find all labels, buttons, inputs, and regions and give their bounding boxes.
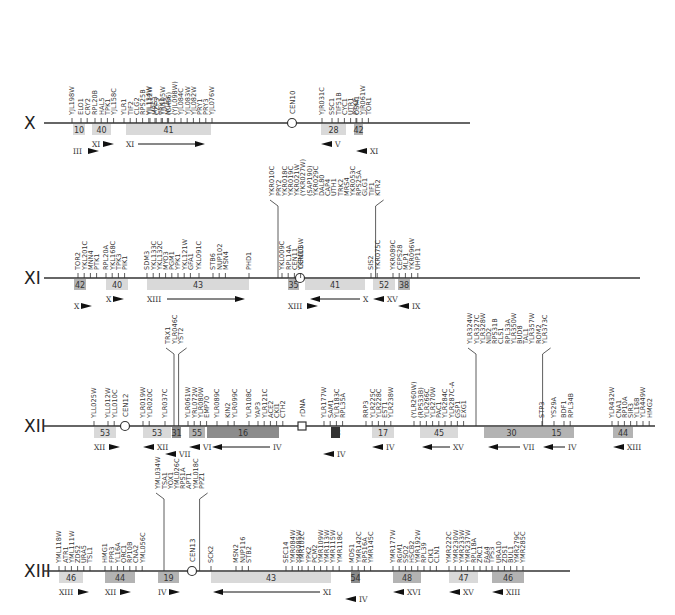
gene-label-group: YJL112WCZF3YJL105W(CH56)(YJL098W)YJL084C… (146, 81, 216, 123)
chromosome-label: X (24, 113, 36, 133)
block-number: 38 (399, 281, 409, 290)
arrow-label: X (363, 295, 369, 304)
gene-label-group: MSN2NUP116STB2 (232, 537, 252, 571)
block-number: 41 (163, 126, 173, 135)
rdna-label: rDNA (299, 398, 307, 417)
gene-label-group: MDS1YMR142CRPS16AYMR145C (348, 531, 375, 571)
synteny-block: 42X (74, 279, 92, 311)
orientation-arrow: XII (143, 443, 168, 452)
arrow-label: XI (370, 147, 378, 156)
gene-label-group: BDF1RPL34B (560, 392, 574, 426)
gene-label: RPL35A (339, 392, 347, 418)
gene-label-group: YLL025W (90, 387, 98, 426)
synteny-block: 43XI (211, 572, 331, 597)
gene-label: SCK2 (207, 546, 215, 563)
gene-label-group: TPS3URA10ZDS1BUL1YMR279CYMR285C (488, 531, 527, 571)
synteny-block: 28V (321, 124, 346, 149)
gene-label-group: YS29A (550, 396, 558, 426)
arrow-label: IV (568, 443, 577, 452)
block-number: 15 (551, 429, 561, 438)
gene-label-group: YLR108C (245, 388, 253, 426)
orientation-arrow: IV (212, 443, 282, 452)
block-number: 19 (163, 574, 173, 583)
arrow-label: XV (463, 588, 474, 597)
gene-label: TOR1 (365, 97, 373, 116)
orientation-arrow: XI (92, 140, 114, 149)
arrow-label: X (74, 302, 80, 311)
block-number: 54 (350, 574, 360, 583)
block-number: 10 (74, 126, 84, 135)
centromere-marker: CEN10 (288, 91, 297, 128)
synteny-block: 44XII (105, 572, 135, 597)
synteny-block: 45XV (420, 427, 464, 452)
gene-label-group: ELO1CRY2 (77, 98, 91, 123)
centromere-label: CEN12 (122, 394, 130, 417)
gene-label: UHP11 (414, 248, 422, 270)
block-number: 17 (378, 429, 388, 438)
gene-label: MSN4 (222, 251, 230, 270)
gene-label: YLR108C (245, 388, 253, 419)
gene-label: YLR373C (541, 314, 549, 345)
block-number: 30 (506, 429, 516, 438)
gene-label-group: SIS2YKR075C (367, 239, 381, 278)
gene-label-group: YKL091C (195, 240, 203, 278)
orientation-arrow: XII (94, 443, 120, 452)
gene-label-group: YMR177WRGM1SSO2HSCB2YMR192WRPL39CIK1CLN1 (389, 529, 440, 571)
block-number: 53 (100, 429, 110, 438)
synteny-block: 19IV (158, 572, 180, 597)
gene-label-group: YJR031C (318, 87, 326, 123)
orientation-arrow: IV (158, 588, 180, 597)
gene-label-group: YAP3YLR121CACE2CKI1CTH2 (254, 388, 287, 426)
chromosome-xi: XI42X40X43XIII35XIII41X52XV38IXCEN11TOR2… (24, 159, 640, 311)
arrow-label: XIII (288, 302, 302, 311)
block-number: 40 (112, 281, 122, 290)
orientation-arrow: VII (488, 443, 534, 452)
arrow-label: XI (92, 140, 100, 149)
gene-label: YST2 (177, 328, 185, 345)
synteny-block: 52XV (373, 279, 398, 304)
orientation-arrow: XIII (147, 295, 245, 304)
arrow-label: IX (412, 302, 421, 311)
gene-label-group: YJL198W (68, 86, 76, 123)
synteny-block: 53XII (94, 427, 120, 452)
gene-label-group: STB6NUP102MSN4 (209, 244, 229, 278)
synteny-block: 16IV (207, 427, 282, 452)
block-number: 16 (238, 429, 248, 438)
rdna-marker: rDNA (298, 398, 307, 430)
centromere-label: CEN10 (289, 91, 297, 114)
gene-label-group: SCK2 (207, 546, 215, 571)
chromosome-x: X10III40XI41XI28V42XICEN10YJL198WELO1CRY… (24, 81, 470, 156)
synteny-block: 40X (106, 279, 128, 304)
gene-label-group: KIN2YLR099C (224, 388, 238, 426)
gene-label: EXG1 (460, 400, 468, 418)
synteny-block: 41X (305, 279, 369, 304)
gene-label-group: SDM3YKL133CYKL132CMYO3PGM1YPK1YKL121WGFA… (143, 238, 194, 278)
arrow-label: XIII (627, 443, 641, 452)
gene-label-group: HMG1FPR3YL16AORC1RP10BCNA2YML056C (101, 532, 146, 571)
gene-label: YML056C (139, 532, 147, 564)
gene-label: YKL091C (195, 240, 203, 271)
orientation-arrow: XIII (613, 443, 641, 452)
gene-label-group: RPL20AYKL168CTPK3PIK1 (102, 240, 129, 278)
arrow-label: V (334, 140, 341, 149)
synteny-diagram: X10III40XI41XI28V42XICEN10YJL198WELO1CRY… (0, 0, 675, 615)
arrow-label: XV (387, 295, 398, 304)
gene-label-group: YLR432WCNA1RP10ASIR3YL16BYLR449WHMG2 (608, 386, 653, 426)
block-number: 43 (193, 281, 203, 290)
synteny-block: 15IV (539, 427, 577, 452)
arrow-label: XIII (59, 588, 73, 597)
gene-label-group: YLR037C (161, 388, 169, 426)
synteny-block: 46XIII (492, 572, 524, 597)
block-number: 18 (330, 429, 340, 438)
synteny-block: 44XIII (613, 427, 641, 452)
block-number: 48 (402, 574, 412, 583)
orientation-arrow: IV (543, 443, 577, 452)
block-number: 44 (618, 429, 628, 438)
synteny-block: 30VII (484, 427, 539, 452)
arrow-label: IV (158, 588, 167, 597)
gene-label: YLR037C (161, 388, 169, 419)
chromosome-label: XII (24, 416, 46, 436)
gene-label-group: YLR177WSAM1YLR183CRPL35A (320, 386, 347, 426)
orientation-arrow: XI (126, 140, 205, 149)
arrow-label: IV (386, 443, 395, 452)
